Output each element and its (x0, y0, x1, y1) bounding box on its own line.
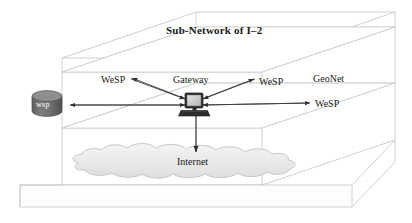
gateway-label: Gateway (173, 74, 209, 85)
wesp-right-label: WeSP (259, 76, 283, 87)
internet-label: Internet (177, 156, 208, 167)
geonet-label: GeoNet (313, 73, 344, 84)
page-title: Sub-Network of I–2 (166, 24, 263, 36)
wesp-far-right-label: WeSP (315, 98, 339, 109)
box-middle-floor (62, 83, 395, 128)
diagram-canvas: Sub-Network of I–2 WeSP Gateway WeSP Geo… (0, 0, 412, 223)
box-3d-shell (20, 12, 395, 207)
wsp-store-label: wsp (36, 100, 50, 109)
wesp-left-label: WeSP (101, 74, 125, 85)
